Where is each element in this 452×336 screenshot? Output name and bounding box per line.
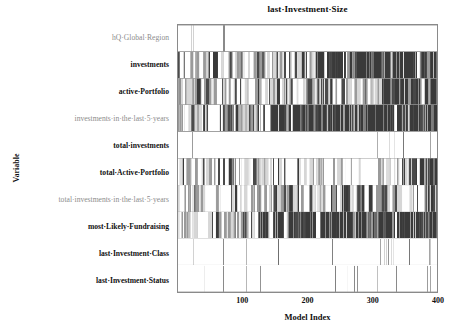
y-axis-label-4: total·investments: [113, 141, 169, 150]
y-axis-label-6: total·investments·in·the·last·5·years: [59, 194, 170, 203]
y-axis-label-5: total·Active·Portfolio: [100, 167, 169, 176]
chart-title: last·Investment·Size: [177, 4, 438, 15]
y-axis-label-9: last·Investment·Status: [96, 275, 169, 284]
raster-plot-canvas: [178, 25, 437, 292]
x-tick-label-200: 200: [302, 296, 314, 305]
y-axis-label-0: hQ·Global·Region: [112, 33, 169, 42]
x-axis-title: Model Index: [177, 312, 438, 322]
y-axis-label-1: investments: [131, 60, 169, 69]
y-axis-labels: hQ·Global·Regioninvestmentsactive·Portfo…: [0, 24, 174, 293]
x-axis-ticks: 100200300400: [177, 293, 438, 309]
chart-root: last·Investment·Size Variable hQ·Global·…: [0, 0, 452, 336]
y-axis-label-3: investments·in·the·last·5·years: [75, 114, 169, 123]
plot-area: [177, 24, 438, 293]
y-axis-label-8: last·Investment·Class: [99, 248, 169, 257]
y-axis-label-7: most·Likely·Fundraising: [88, 221, 169, 230]
x-tick-label-100: 100: [236, 296, 248, 305]
y-axis-label-2: active·Portfolio: [119, 87, 169, 96]
x-tick-label-300: 300: [367, 296, 379, 305]
x-tick-label-400: 400: [432, 296, 444, 305]
